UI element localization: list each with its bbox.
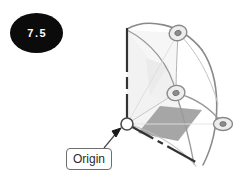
origin-callout-label: Origin	[73, 153, 105, 165]
arc-right-outer	[202, 50, 217, 165]
origin-node-marker	[121, 118, 133, 130]
origin-callout-box: Origin	[66, 148, 112, 170]
figure-canvas: 7.5	[0, 0, 242, 186]
right-node-marker	[214, 118, 233, 131]
callout-leader-arrowhead	[112, 128, 121, 137]
spherical-sector-diagram	[0, 0, 242, 186]
